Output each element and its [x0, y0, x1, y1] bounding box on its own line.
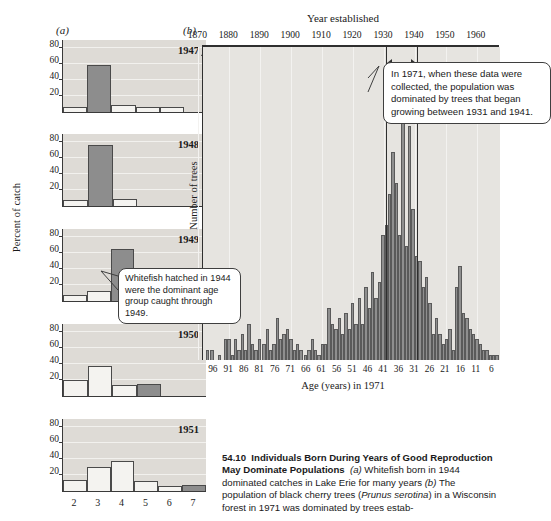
bar-1950-age-2	[63, 380, 88, 396]
bar-1951-age-4	[111, 461, 135, 491]
panel-a-x-axis-labels: 234567	[62, 497, 205, 508]
top-tick-label-1880: 1880	[219, 29, 238, 40]
bottom-tick-label-46: 46	[363, 364, 372, 374]
y-tick-label: 60	[50, 149, 60, 159]
histogram-bar-age-95	[210, 350, 213, 360]
bottom-tick-label-41: 41	[378, 364, 387, 374]
figure-caption: 54.10 Individuals Born During Years of G…	[222, 452, 500, 514]
y-tick-label: 80	[50, 418, 60, 428]
bottom-tick-label-36: 36	[394, 364, 403, 374]
bar-1950-age-3	[88, 366, 113, 396]
y-tick-label: 20	[50, 87, 60, 97]
bar-1947-age-6	[160, 107, 184, 112]
y-tick-label: 80	[50, 323, 60, 333]
bar-1948-age-4	[113, 199, 138, 206]
y-tick-label: 60	[50, 55, 60, 65]
panel-b-x-axis-label: Age (years) in 1971	[183, 380, 503, 391]
bottom-tick-label-11: 11	[471, 364, 480, 374]
y-tick-label: 60	[50, 244, 60, 254]
bar-1947-age-4	[111, 105, 135, 112]
top-tick-label-1950: 1950	[435, 29, 454, 40]
bar-1949-age-2	[63, 295, 87, 301]
y-tick-label: 20	[50, 181, 60, 191]
top-tick-label-1940: 1940	[404, 29, 423, 40]
top-tick-label-1900: 1900	[281, 29, 300, 40]
panel-b: (b) Year established Number of trees 187…	[183, 0, 503, 420]
bar-1948-age-3	[88, 145, 113, 206]
bar-1947-age-3	[87, 65, 111, 112]
panel-a-y-axis-label: Percent of catch	[11, 158, 22, 278]
y-tick-label: 80	[50, 39, 60, 49]
x-tick-label-7: 7	[181, 497, 205, 508]
caption-species-name: Prunus serotina	[361, 489, 428, 500]
bottom-tick-label-31: 31	[409, 364, 418, 374]
x-tick-label-3: 3	[86, 497, 110, 508]
bar-1950-age-5	[137, 384, 162, 396]
top-tick-label-1910: 1910	[312, 29, 331, 40]
year-label-1951: 1951	[178, 424, 199, 435]
top-tick-label-1920: 1920	[342, 29, 361, 40]
bar-1951-age-3	[87, 467, 111, 491]
panel-b-top-axis-title: Year established	[183, 12, 503, 24]
bottom-tick-label-86: 86	[239, 364, 248, 374]
bottom-tick-label-96: 96	[208, 364, 217, 374]
y-tick-label: 80	[50, 228, 60, 238]
y-tick-label: 60	[50, 339, 60, 349]
bar-1950-age-4	[112, 385, 137, 396]
caption-number: 54.10	[222, 452, 246, 463]
histogram-bar-age-78	[258, 339, 261, 360]
bar-1951-age-6	[158, 486, 182, 491]
bar-1951-age-7	[182, 485, 206, 491]
bar-1947-age-2	[63, 107, 87, 112]
bottom-tick-label-21: 21	[440, 364, 449, 374]
y-tick-label: 40	[50, 260, 60, 270]
bar-1951-age-5	[134, 481, 158, 491]
top-tick-label-1870: 1870	[188, 29, 207, 40]
bar-1949-age-3	[87, 291, 111, 301]
bottom-tick-label-61: 61	[316, 364, 325, 374]
x-tick-label-2: 2	[62, 497, 86, 508]
y-tick-label: 40	[50, 71, 60, 81]
y-tick-label: 40	[50, 355, 60, 365]
bottom-tick-label-81: 81	[255, 364, 264, 374]
bottom-tick-label-66: 66	[301, 364, 310, 374]
panel-a-letter: (a)	[56, 24, 69, 36]
callout-trees: In 1971, when these data were collected,…	[383, 62, 551, 124]
y-tick-label: 60	[50, 434, 60, 444]
bottom-tick-label-91: 91	[224, 364, 233, 374]
top-tick-label-1960: 1960	[466, 29, 485, 40]
y-tick-label: 20	[50, 371, 60, 381]
bottom-tick-label-71: 71	[285, 364, 294, 374]
histogram-bar-age-97	[206, 350, 209, 360]
bar-1948-age-2	[63, 200, 88, 206]
top-tick-label-1890: 1890	[250, 29, 269, 40]
y-tick-label: 40	[50, 450, 60, 460]
y-tick-label: 40	[50, 165, 60, 175]
top-tick-label-1930: 1930	[373, 29, 392, 40]
bar-1951-age-2	[63, 480, 87, 491]
histogram-bar-age-65	[299, 350, 302, 360]
caption-part-a-letter: (a)	[350, 464, 362, 475]
y-tick-label: 80	[50, 133, 60, 143]
bottom-tick-label-51: 51	[347, 364, 356, 374]
histogram-bar-age-6	[495, 355, 498, 360]
bottom-tick-label-76: 76	[270, 364, 279, 374]
bottom-tick-label-26: 26	[425, 364, 434, 374]
histogram-bar-age-91	[218, 355, 221, 360]
bottom-tick-label-16: 16	[456, 364, 465, 374]
y-tick-label: 20	[50, 466, 60, 476]
y-tick-label: 20	[50, 276, 60, 286]
bottom-tick-label-56: 56	[332, 364, 341, 374]
x-tick-label-5: 5	[133, 497, 157, 508]
caption-part-b-letter: (b)	[425, 477, 437, 488]
bar-1947-age-5	[136, 107, 160, 112]
callout-whitefish: Whitefish hatched in 1944 were the domin…	[118, 268, 241, 324]
x-tick-label-6: 6	[157, 497, 181, 508]
x-tick-label-4: 4	[110, 497, 134, 508]
mini-chart-1951: 204060801951	[62, 419, 206, 492]
bottom-tick-label-6: 6	[489, 364, 494, 374]
